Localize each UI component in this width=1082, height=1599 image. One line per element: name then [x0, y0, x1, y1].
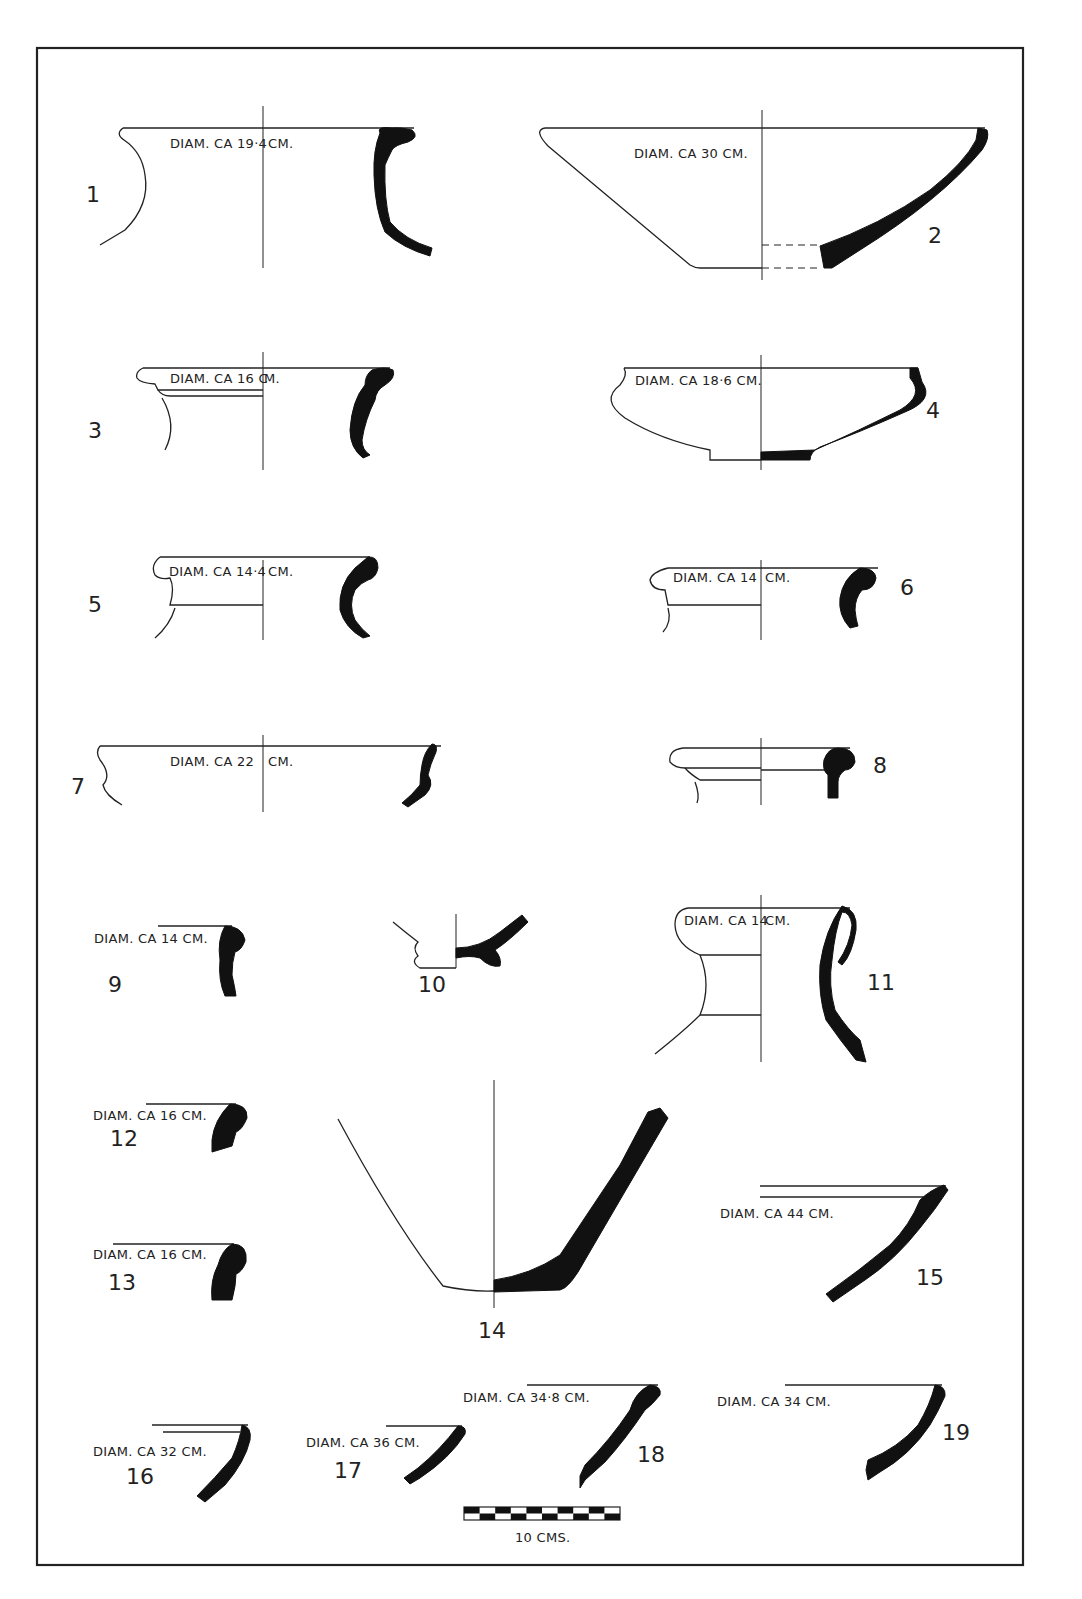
- diameter-label: DIAM. CA 44 CM.: [720, 1206, 834, 1221]
- sherd-8: 8: [670, 738, 887, 805]
- section-profile: [820, 128, 988, 268]
- sherd-17: DIAM. CA 36 CM. 17: [306, 1426, 465, 1484]
- sherd-3: DIAM. CA 16 C M. 3: [88, 352, 394, 470]
- section-profile: [402, 744, 437, 807]
- section-profile: [212, 1244, 247, 1300]
- section-profile: [212, 1104, 247, 1152]
- diameter-label: DIAM. CA 14·4: [169, 564, 266, 579]
- sherd-number: 3: [88, 418, 102, 443]
- svg-text:CM.: CM.: [765, 570, 790, 585]
- sherd-11: DIAM. CA 14 CM. 11: [655, 895, 895, 1062]
- diameter-label: DIAM. CA 34 CM.: [717, 1394, 831, 1409]
- sherd-number: 8: [873, 753, 887, 778]
- diameter-label: DIAM. CA 32 CM.: [93, 1444, 207, 1459]
- sherd-number: 6: [900, 575, 914, 600]
- sherd-number: 16: [126, 1464, 154, 1489]
- svg-text:CM.: CM.: [268, 754, 293, 769]
- section-profile: [350, 368, 394, 458]
- sherd-number: 17: [334, 1458, 362, 1483]
- diameter-label: DIAM. CA 22: [170, 754, 254, 769]
- sherd-6: DIAM. CA 14 CM. 6: [650, 560, 914, 640]
- sherd-4: DIAM. CA 18·6 CM. 4: [611, 355, 940, 470]
- diameter-label: DIAM. CA 16 CM.: [93, 1247, 207, 1262]
- section-profile: [761, 368, 926, 460]
- diameter-label: DIAM. CA 14 CM.: [94, 931, 208, 946]
- svg-text:CM.: CM.: [268, 564, 293, 579]
- sherd-number: 9: [108, 972, 122, 997]
- section-profile: [456, 915, 528, 966]
- sherd-number: 15: [916, 1265, 944, 1290]
- section-profile: [824, 748, 856, 798]
- section-profile: [866, 1385, 945, 1480]
- sherd-number: 13: [108, 1270, 136, 1295]
- diameter-label: DIAM. CA 18·6 CM.: [635, 373, 762, 388]
- sherd-9: DIAM. CA 14 CM. 9: [94, 926, 245, 997]
- scale-bar-label: 10 CMS.: [515, 1530, 570, 1545]
- pottery-plate: DIAM. CA 19·4 CM. 1 DIAM. CA 30 CM. 2 DI…: [0, 0, 1082, 1599]
- diameter-label: DIAM. CA 14: [684, 913, 768, 928]
- svg-text:CM.: CM.: [765, 913, 790, 928]
- sherd-14: 14: [338, 1080, 668, 1343]
- sherd-number: 10: [418, 972, 446, 997]
- diameter-label: DIAM. CA 14: [673, 570, 757, 585]
- sherd-13: DIAM. CA 16 CM. 13: [93, 1244, 246, 1300]
- sherd-19: DIAM. CA 34 CM. 19: [717, 1385, 970, 1480]
- sherd-number: 7: [71, 774, 85, 799]
- sherd-number: 19: [942, 1420, 970, 1445]
- sherd-10: 10: [393, 914, 528, 997]
- sherd-number: 18: [637, 1442, 665, 1467]
- plate-frame: [37, 48, 1023, 1565]
- sherd-number: 1: [86, 182, 100, 207]
- diameter-label: DIAM. CA 16 C: [170, 371, 268, 386]
- sherd-12: DIAM. CA 16 CM. 12: [93, 1104, 247, 1152]
- diameter-label: DIAM. CA 36 CM.: [306, 1435, 420, 1450]
- sherd-2: DIAM. CA 30 CM. 2: [540, 110, 988, 280]
- section-profile: [840, 568, 876, 628]
- svg-text:M.: M.: [264, 371, 280, 386]
- scale-bar: 10 CMS.: [464, 1507, 620, 1545]
- sherd-16: DIAM. CA 32 CM. 16: [93, 1425, 250, 1502]
- section-profile: [494, 1108, 668, 1292]
- section-profile: [374, 128, 432, 256]
- sherd-15: DIAM. CA 44 CM. 15: [720, 1185, 948, 1302]
- section-profile: [340, 557, 378, 638]
- diameter-label: DIAM. CA 16 CM.: [93, 1108, 207, 1123]
- sherd-number: 14: [478, 1318, 506, 1343]
- sherd-1: DIAM. CA 19·4 CM. 1: [86, 106, 432, 268]
- section-profile: [197, 1425, 250, 1502]
- sherd-18: DIAM. CA 34·8 CM. 18: [463, 1385, 665, 1488]
- svg-text:CM.: CM.: [268, 136, 293, 151]
- diameter-label: DIAM. CA 30 CM.: [634, 146, 748, 161]
- sherd-5: DIAM. CA 14·4 CM. 5: [88, 557, 378, 640]
- sherd-number: 5: [88, 592, 102, 617]
- section-profile: [580, 1385, 660, 1488]
- sherd-number: 2: [928, 223, 942, 248]
- diameter-label: DIAM. CA 34·8 CM.: [463, 1390, 590, 1405]
- section-profile: [820, 906, 866, 1062]
- section-profile: [219, 926, 245, 996]
- sherd-number: 11: [867, 970, 895, 995]
- diameter-label: DIAM. CA 19·4: [170, 136, 267, 151]
- sherd-number: 4: [926, 398, 940, 423]
- sherd-number: 12: [110, 1126, 138, 1151]
- sherd-7: DIAM. CA 22 CM. 7: [71, 735, 441, 812]
